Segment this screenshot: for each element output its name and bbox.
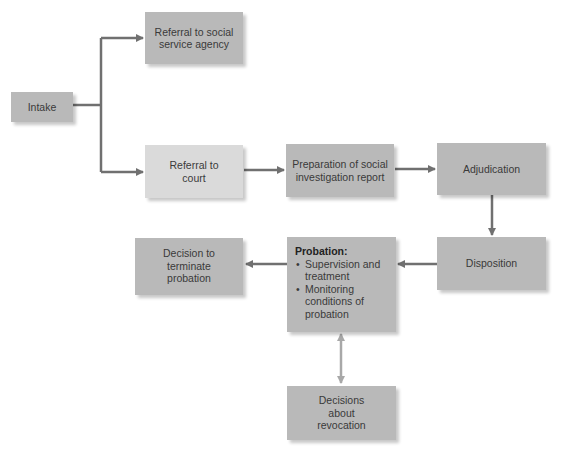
node-label: Decisions about revocation [309, 394, 375, 432]
node-intake: Intake [11, 92, 73, 122]
node-preparation-report: Preparation of social investigation repo… [286, 144, 394, 197]
node-disposition: Disposition [437, 237, 546, 290]
connector-arrows [0, 0, 563, 458]
node-label: Referral to social service agency [153, 26, 235, 51]
node-label: Intake [28, 101, 57, 114]
probation-title: Probation: [295, 245, 390, 258]
node-referral-social-agency: Referral to social service agency [145, 12, 243, 64]
node-probation: Probation: Supervision and treatment Mon… [287, 237, 396, 332]
node-label: Adjudication [463, 163, 520, 176]
node-label: Decision to terminate probation [156, 247, 222, 285]
node-adjudication: Adjudication [437, 143, 546, 195]
node-label: Preparation of social investigation repo… [290, 158, 390, 183]
node-label: Disposition [466, 257, 517, 270]
node-referral-court: Referral to court [145, 145, 243, 198]
probation-item: Supervision and treatment [305, 258, 390, 283]
probation-item: Monitoring conditions of probation [305, 283, 383, 321]
node-label: Referral to court [159, 159, 229, 184]
node-terminate-probation: Decision to terminate probation [135, 238, 243, 295]
node-revocation-decisions: Decisions about revocation [287, 386, 396, 440]
probation-list: Supervision and treatment Monitoring con… [295, 258, 390, 321]
